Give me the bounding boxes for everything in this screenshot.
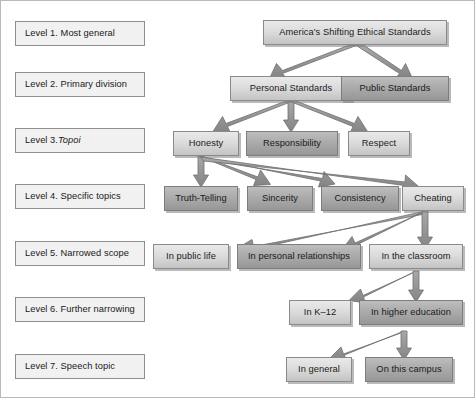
edge-honesty-to-consistency	[200, 157, 335, 188]
node-responsibility[interactable]: Responsibility	[246, 131, 338, 156]
edge-honesty-to-truth-telling	[194, 156, 209, 187]
node-sincerity-label: Sincerity	[262, 194, 298, 203]
node-in-public-life-label: In public life	[166, 252, 216, 261]
node-personal-standards-label: Personal Standards	[250, 84, 333, 93]
node-in-general[interactable]: In general	[286, 357, 352, 382]
node-in-higher-education-label: In higher education	[371, 308, 451, 317]
node-in-general-label: In general	[298, 365, 340, 374]
level-label-5-text: Level 5. Narrowed scope	[25, 249, 129, 258]
node-in-k-12-label: In K–12	[304, 308, 336, 317]
node-honesty[interactable]: Honesty	[173, 131, 239, 156]
node-responsibility-label: Responsibility	[263, 139, 321, 148]
node-in-the-classroom[interactable]: In the classroom	[369, 244, 463, 269]
level-label-2-text: Level 2. Primary division	[25, 80, 127, 89]
level-label-4-text: Level 4. Specific topics	[25, 192, 121, 201]
edge-personal-to-respect	[289, 101, 368, 132]
diagram-canvas: Level 1. Most general Level 2. Primary d…	[0, 0, 475, 398]
level-label-3: Level 3. Topoi	[15, 128, 145, 153]
edge-title-to-personal	[270, 45, 358, 79]
edge-classroom-to-higher-education	[409, 271, 424, 302]
edge-personal-to-responsibility	[284, 101, 299, 132]
level-label-5: Level 5. Narrowed scope	[15, 241, 145, 266]
node-honesty-label: Honesty	[189, 139, 223, 148]
node-respect[interactable]: Respect	[348, 131, 410, 156]
level-label-2: Level 2. Primary division	[15, 72, 145, 97]
node-cheating[interactable]: Cheating	[402, 186, 464, 211]
edge-title-to-public	[356, 45, 413, 79]
edge-higher-education-to-on-this-campus	[397, 331, 412, 360]
node-in-personal-relationships[interactable]: In personal relationships	[237, 244, 361, 269]
edge-personal-to-honesty	[213, 101, 293, 132]
node-in-the-classroom-label: In the classroom	[381, 252, 450, 261]
level-label-7-text: Level 7. Speech topic	[25, 362, 115, 371]
level-label-3-text: Level 3.	[25, 136, 58, 145]
node-cheating-label: Cheating	[414, 194, 452, 203]
level-label-4: Level 4. Specific topics	[15, 184, 145, 209]
level-label-1-text: Level 1. Most general	[25, 29, 115, 38]
node-in-higher-education[interactable]: In higher education	[359, 300, 463, 325]
node-sincerity[interactable]: Sincerity	[247, 186, 313, 211]
node-on-this-campus[interactable]: On this campus	[365, 357, 453, 382]
level-label-3-italic: Topoi	[58, 136, 81, 145]
edge-classroom-to-k12	[349, 271, 416, 303]
node-americas-shifting-ethical-standards[interactable]: America's Shifting Ethical Standards	[263, 20, 447, 45]
node-in-k-12[interactable]: In K–12	[289, 300, 351, 325]
level-label-7: Level 7. Speech topic	[15, 354, 145, 379]
node-consistency[interactable]: Consistency	[321, 186, 399, 211]
level-label-1: Level 1. Most general	[15, 21, 145, 46]
node-truth-telling-label: Truth-Telling	[175, 194, 226, 203]
level-label-6: Level 6. Further narrowing	[15, 297, 145, 322]
node-consistency-label: Consistency	[334, 194, 385, 203]
node-respect-label: Respect	[362, 139, 396, 148]
level-label-6-text: Level 6. Further narrowing	[25, 305, 135, 314]
node-in-personal-relationships-label: In personal relationships	[248, 252, 350, 261]
node-truth-telling[interactable]: Truth-Telling	[164, 186, 238, 211]
node-on-this-campus-label: On this campus	[376, 365, 441, 374]
node-public-standards-label: Public Standards	[359, 84, 430, 93]
edge-honesty-to-sincerity	[200, 156, 271, 186]
node-americas-shifting-ethical-standards-label: America's Shifting Ethical Standards	[279, 28, 430, 37]
node-in-public-life[interactable]: In public life	[153, 244, 229, 269]
node-personal-standards[interactable]: Personal Standards	[230, 76, 352, 101]
node-public-standards[interactable]: Public Standards	[341, 76, 449, 101]
